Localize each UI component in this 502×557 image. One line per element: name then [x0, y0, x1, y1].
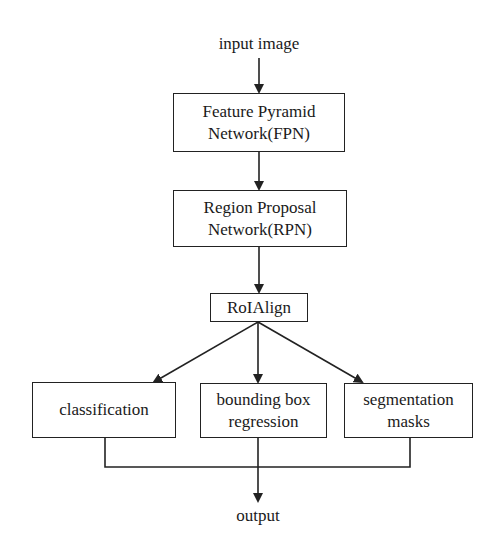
rpn-line2: Network(RPN) [204, 219, 317, 241]
rpn-box: Region Proposal Network(RPN) [173, 190, 347, 247]
roialign-label: RoIAlign [227, 297, 291, 319]
fpn-box: Feature Pyramid Network(FPN) [173, 93, 345, 152]
masks-line2: masks [363, 411, 454, 433]
output-label: output [208, 506, 308, 526]
classification-label: classification [59, 399, 149, 421]
arrow-roialign-to-classification [154, 322, 258, 382]
segmentation-masks-box: segmentation masks [344, 383, 473, 438]
fpn-line2: Network(FPN) [203, 123, 316, 145]
rpn-line1: Region Proposal [204, 197, 317, 219]
arrow-roialign-to-masks [258, 322, 362, 382]
bbox-line1: bounding box [217, 389, 311, 411]
masks-line1: segmentation [363, 389, 454, 411]
bbox-regression-box: bounding box regression [200, 383, 327, 438]
input-image-label: input image [189, 34, 329, 54]
bbox-line2: regression [217, 411, 311, 433]
connector-layer [0, 0, 502, 557]
mask-rcnn-diagram: input image Feature Pyramid Network(FPN)… [0, 0, 502, 557]
fpn-line1: Feature Pyramid [203, 101, 316, 123]
classification-box: classification [32, 382, 176, 438]
roialign-box: RoIAlign [210, 293, 308, 322]
